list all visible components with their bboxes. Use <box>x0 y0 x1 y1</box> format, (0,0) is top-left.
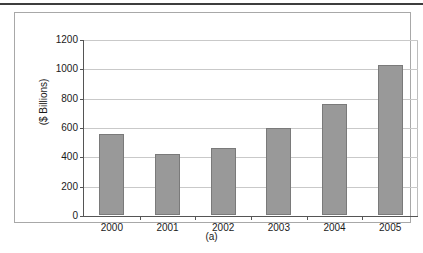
y-axis-tick-label: 0 <box>72 211 78 221</box>
page-top-rule <box>0 3 423 5</box>
figure-caption: (a) <box>0 231 423 243</box>
y-axis-tick-label: 200 <box>61 182 78 192</box>
y-axis-tick-label: 1200 <box>56 35 78 45</box>
y-axis-tick-mark <box>80 216 84 217</box>
bar-slot <box>140 39 196 215</box>
y-axis-tick-label: 800 <box>61 94 78 104</box>
y-axis-tick-label: 400 <box>61 152 78 162</box>
bar-2003[interactable] <box>266 128 291 215</box>
x-axis-tick-mark <box>140 216 141 220</box>
y-axis-tick-label: 1000 <box>56 64 78 74</box>
x-axis-tick-mark <box>195 216 196 220</box>
y-axis-title-label: ($ Billions) <box>39 78 49 125</box>
bar-2005[interactable] <box>378 65 403 215</box>
bar-2001[interactable] <box>155 154 180 215</box>
bar-slot <box>307 39 363 215</box>
bar-slot <box>195 39 251 215</box>
x-axis-tick-mark <box>251 216 252 220</box>
y-axis-title: ($ Billions) <box>37 13 51 190</box>
x-axis-tick-mark <box>362 216 363 220</box>
bar-chart-plot-area: 020040060080010001200 200020012002200320… <box>83 40 418 217</box>
bar-2002[interactable] <box>211 148 236 215</box>
bar-2000[interactable] <box>99 134 124 215</box>
bar-2004[interactable] <box>322 104 347 215</box>
y-axis-tick-label: 600 <box>61 123 78 133</box>
bar-slot <box>362 39 418 215</box>
x-axis-tick-mark <box>307 216 308 220</box>
bar-slot <box>84 39 140 215</box>
bar-slot <box>251 39 307 215</box>
chart-frame: ($ Billions) 020040060080010001200 20002… <box>14 12 411 223</box>
